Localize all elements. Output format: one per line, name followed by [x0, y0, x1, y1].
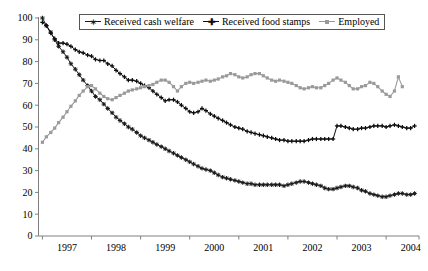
tick-label-layer: 0102030405060708090100199719981999200020…	[18, 12, 421, 253]
svg-text:1998: 1998	[106, 242, 126, 253]
svg-text:60: 60	[23, 100, 33, 111]
square-marker-icon	[319, 18, 335, 26]
svg-text:2001: 2001	[253, 242, 273, 253]
legend-label: Received food stamps	[222, 17, 310, 27]
series-layer	[40, 16, 417, 199]
svg-text:2000: 2000	[204, 242, 224, 253]
star-marker-icon: ✶	[85, 18, 101, 26]
legend-label: Received cash welfare	[104, 17, 194, 27]
legend-entry-1: ✶Received cash welfare	[85, 17, 194, 27]
svg-text:1997: 1997	[57, 242, 77, 253]
series-3	[41, 72, 404, 144]
svg-text:20: 20	[23, 187, 33, 198]
chart-container: 0102030405060708090100199719981999200020…	[0, 0, 428, 271]
series-1	[40, 16, 417, 199]
legend-label: Employed	[338, 17, 379, 27]
svg-text:30: 30	[23, 165, 33, 176]
svg-text:90: 90	[23, 34, 33, 45]
svg-text:2004: 2004	[401, 242, 421, 253]
legend-entry-3: Employed	[319, 17, 379, 27]
legend-entry-2: ✚Received food stamps	[203, 17, 310, 27]
svg-text:80: 80	[23, 56, 33, 67]
line-chart-plot: 0102030405060708090100199719981999200020…	[0, 0, 428, 271]
chart-legend: ✶Received cash welfare✚Received food sta…	[79, 14, 385, 30]
svg-text:10: 10	[23, 209, 33, 220]
series-2	[40, 20, 416, 143]
svg-text:70: 70	[23, 78, 33, 89]
svg-text:1999: 1999	[155, 242, 175, 253]
plus-marker-icon: ✚	[203, 18, 219, 26]
svg-text:100: 100	[18, 12, 33, 23]
svg-text:0: 0	[28, 230, 33, 241]
svg-text:2003: 2003	[352, 242, 372, 253]
svg-text:2002: 2002	[302, 242, 322, 253]
svg-text:50: 50	[23, 121, 33, 132]
svg-text:40: 40	[23, 143, 33, 154]
